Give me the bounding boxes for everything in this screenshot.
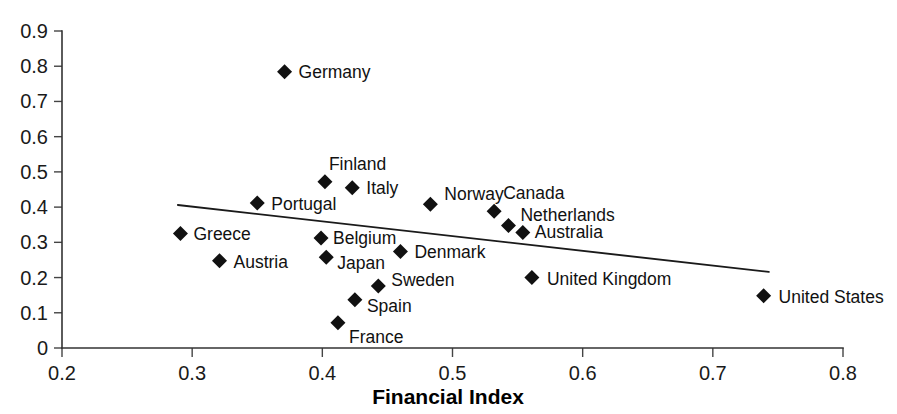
data-point-marker: [501, 218, 516, 233]
data-point-marker: [347, 292, 362, 307]
data-point: Austria: [212, 252, 288, 272]
data-points-group: GermanyFinlandItalyNorwayPortugalCanadaN…: [173, 62, 884, 347]
data-point-marker: [345, 180, 360, 195]
data-point-label: Spain: [367, 296, 412, 316]
data-point: Spain: [347, 292, 411, 316]
x-axis-title: Financial Index: [372, 385, 524, 408]
y-tick-label: 0.8: [20, 55, 48, 77]
x-tick-label: 0.6: [569, 362, 597, 384]
data-point-marker: [515, 225, 530, 240]
y-tick-label: 0.2: [20, 267, 48, 289]
data-point-label: France: [349, 327, 403, 347]
data-point: Portugal: [250, 194, 337, 214]
data-point-marker: [371, 279, 386, 294]
data-point-label: Germany: [299, 62, 371, 82]
data-point-label: Australia: [535, 222, 603, 242]
data-point: United States: [756, 287, 884, 307]
data-point: Belgium: [314, 228, 397, 248]
data-point: Denmark: [393, 242, 486, 262]
x-tick-label: 0.5: [439, 362, 467, 384]
y-tick-label: 0: [37, 337, 48, 359]
x-tick-label: 0.3: [178, 362, 206, 384]
data-point-label: Finland: [329, 154, 386, 174]
data-point-label: Austria: [234, 252, 289, 272]
data-point-label: Japan: [337, 253, 385, 273]
y-tick-label: 0.5: [20, 161, 48, 183]
data-point-label: Italy: [366, 178, 398, 198]
data-point: Japan: [319, 250, 385, 274]
data-point-marker: [423, 197, 438, 212]
data-point-label: United States: [779, 287, 884, 307]
x-tick-label: 0.7: [699, 362, 727, 384]
y-tick-label: 0.4: [20, 196, 48, 218]
data-point-marker: [317, 174, 332, 189]
data-point-marker: [330, 315, 345, 330]
data-point-marker: [212, 253, 227, 268]
data-point-marker: [314, 231, 329, 246]
data-point-marker: [250, 195, 265, 210]
data-point-marker: [173, 226, 188, 241]
data-point: France: [330, 315, 403, 347]
y-tick-label: 0.1: [20, 302, 48, 324]
y-axis-ticks: 00.10.20.30.40.50.60.70.80.9: [20, 20, 62, 359]
data-point: Italy: [345, 178, 399, 198]
data-point: Greece: [173, 224, 251, 244]
plot-canvas: 00.10.20.30.40.50.60.70.80.9 0.20.30.40.…: [0, 0, 897, 414]
y-tick-label: 0.6: [20, 126, 48, 148]
x-axis-ticks: 0.20.30.40.50.60.70.8: [48, 348, 857, 384]
data-point-label: Denmark: [414, 242, 485, 262]
data-point: Australia: [515, 222, 603, 242]
data-point-label: Belgium: [333, 228, 396, 248]
data-point: Sweden: [371, 270, 455, 294]
data-point-label: Greece: [193, 224, 250, 244]
y-tick-label: 0.3: [20, 231, 48, 253]
data-point-label: Sweden: [391, 270, 454, 290]
x-tick-label: 0.2: [48, 362, 76, 384]
data-point-label: Portugal: [271, 194, 336, 214]
data-point-marker: [487, 204, 502, 219]
x-tick-label: 0.8: [829, 362, 857, 384]
data-point-label: Canada: [503, 183, 565, 203]
data-point-marker: [524, 270, 539, 285]
scatter-plot-figure: 00.10.20.30.40.50.60.70.80.9 0.20.30.40.…: [0, 0, 897, 414]
data-point-label: Norway: [444, 184, 504, 204]
data-point-label: United Kingdom: [547, 269, 672, 289]
x-tick-label: 0.4: [308, 362, 336, 384]
data-point-marker: [277, 64, 292, 79]
y-tick-label: 0.7: [20, 90, 48, 112]
data-point: Germany: [277, 62, 371, 82]
data-point-marker: [756, 288, 771, 303]
data-point: United Kingdom: [524, 269, 671, 289]
y-tick-label: 0.9: [20, 20, 48, 42]
data-point-marker: [319, 250, 334, 265]
